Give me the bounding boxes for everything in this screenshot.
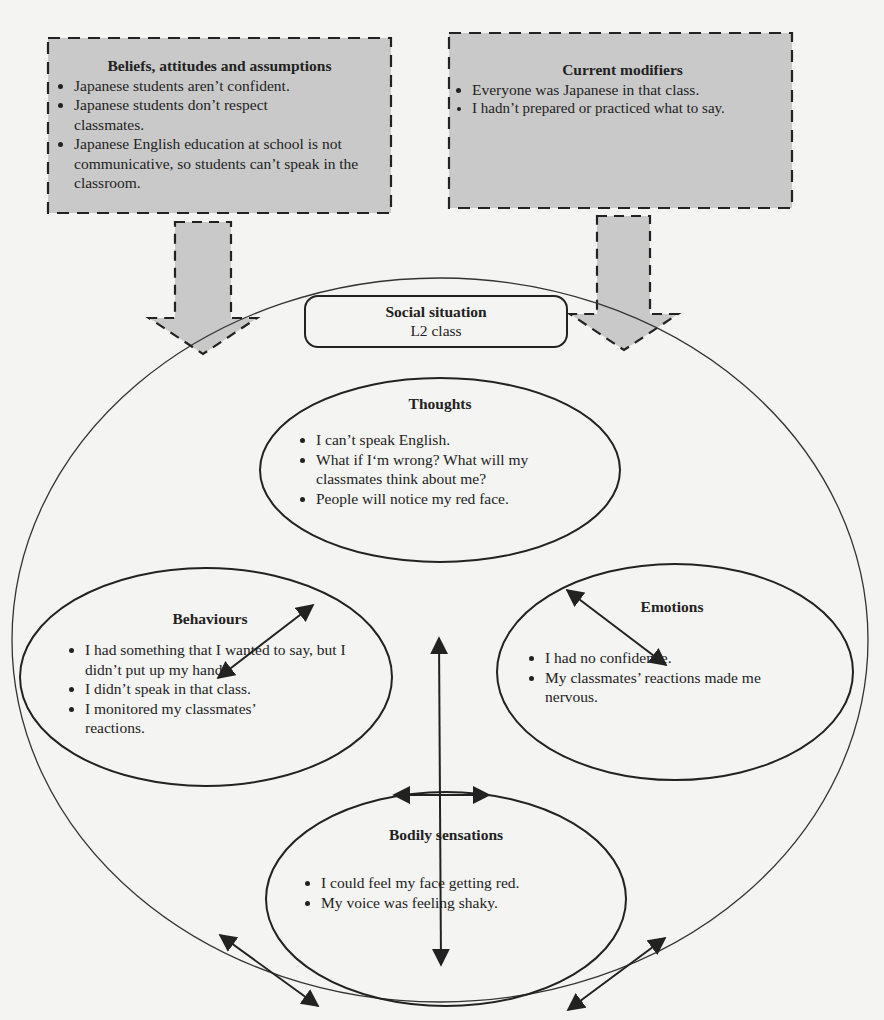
arrow-behaviours-bodily: [220, 935, 318, 1006]
emotions-item: My classmates’ reactions made me nervous…: [545, 668, 817, 707]
behaviours-item: I monitored my classmates’ reactions.: [85, 699, 352, 738]
behaviours-list: I had something that I wanted to say, bu…: [67, 640, 352, 738]
modifiers-title: Current modifiers: [450, 60, 795, 80]
thoughts-title: Thoughts: [340, 395, 540, 413]
thoughts-item: I can’t speak English.: [316, 430, 578, 450]
thoughts-item: People will notice my red face.: [316, 489, 578, 509]
beliefs-list: Japanese students aren’t confident. Japa…: [52, 76, 387, 193]
emotions-title: Emotions: [572, 598, 772, 616]
bodily-sensations-title: Bodily sensations: [346, 826, 546, 844]
bodily-sensations-list: I could feel my face getting red. My voi…: [303, 873, 593, 912]
emotions-item: I had no confidence.: [545, 648, 817, 668]
social-situation-box: Social situation L2 class: [305, 302, 567, 340]
arrow-emotions-bodily: [568, 938, 665, 1010]
bodily-sensations-item: My voice was feeling shaky.: [321, 893, 593, 913]
social-situation-title: Social situation: [305, 302, 567, 321]
modifiers-list: Everyone was Japanese in that class. I h…: [450, 80, 795, 119]
beliefs-item: Japanese students don’t respect classmat…: [74, 95, 387, 134]
beliefs-down-arrow: [149, 222, 257, 354]
modifiers-item: Everyone was Japanese in that class.: [472, 80, 795, 100]
beliefs-title: Beliefs, attitudes and assumptions: [52, 56, 387, 76]
beliefs-item: Japanese English education at school is …: [74, 134, 387, 193]
thoughts-item: What if I‘m wrong? What will my classmat…: [316, 450, 578, 489]
bodily-sensations-item: I could feel my face getting red.: [321, 873, 593, 893]
behaviours-title: Behaviours: [110, 610, 310, 628]
behaviours-item: I didn’t speak in that class.: [85, 679, 352, 699]
beliefs-item: Japanese students aren’t confident.: [74, 76, 387, 96]
behaviours-item: I had something that I wanted to say, bu…: [85, 640, 352, 679]
arrow-thoughts-bodily: [439, 638, 441, 965]
modifiers-item: I hadn’t prepared or practiced what to s…: [472, 99, 795, 119]
emotions-list: I had no confidence. My classmates’ reac…: [527, 648, 817, 707]
social-situation-subtitle: L2 class: [305, 321, 567, 340]
beliefs-box: Beliefs, attitudes and assumptions Japan…: [52, 56, 387, 193]
thoughts-list: I can’t speak English. What if I‘m wrong…: [298, 430, 578, 508]
modifiers-box: Current modifiers Everyone was Japanese …: [450, 60, 795, 119]
